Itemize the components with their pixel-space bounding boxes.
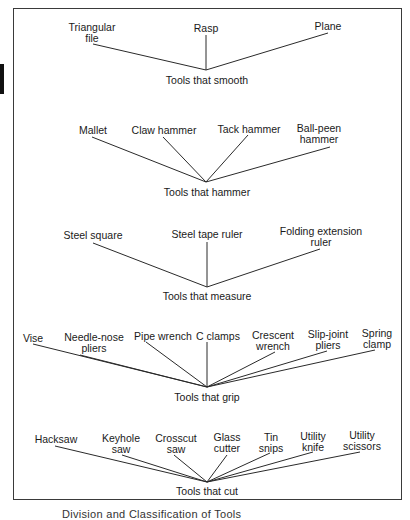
tool-label: Vise (23, 333, 43, 344)
tool-label: Ball-peen hammer (297, 123, 341, 145)
connector-hammer-1 (163, 137, 206, 182)
tool-label: Mallet (79, 125, 107, 136)
connector-grip-1 (80, 355, 207, 387)
connector-cut-3 (207, 455, 227, 482)
connector-grip-6 (207, 350, 375, 387)
tool-label: Crescent wrench (252, 330, 294, 352)
tool-label: Utility scissors (343, 430, 381, 452)
tool-label: Hacksaw (35, 434, 78, 445)
connector-cut-4 (207, 453, 270, 482)
group-caption-measure: Tools that measure (163, 291, 252, 302)
connector-hammer-2 (206, 135, 248, 182)
tool-label: Claw hammer (132, 125, 197, 136)
group-caption-hammer: Tools that hammer (164, 187, 250, 198)
tool-label: Needle-nose pliers (64, 332, 124, 354)
tool-label: Slip-joint pliers (308, 329, 348, 351)
tool-label: Rasp (194, 23, 219, 34)
connector-measure-2 (207, 249, 320, 287)
connector-grip-2 (146, 342, 207, 387)
connector-hammer-3 (206, 147, 330, 182)
tool-label: Glass cutter (214, 432, 241, 454)
connector-cut-5 (207, 452, 313, 482)
connector-measure-0 (93, 243, 207, 287)
figure-caption: Division and Classification of Tools (62, 508, 241, 520)
tool-label: Triangular file (69, 22, 116, 44)
tool-label: Tin snips (259, 432, 284, 454)
connector-hammer-0 (92, 137, 206, 182)
tool-label: Steel tape ruler (171, 229, 242, 240)
group-caption-grip: Tools that grip (174, 392, 239, 403)
tool-label: Keyhole saw (102, 433, 140, 455)
tool-label: C clamps (196, 331, 240, 342)
tool-label: Crosscut saw (155, 433, 196, 455)
tool-label: Plane (315, 21, 342, 32)
connector-smooth-2 (206, 33, 328, 70)
tool-label: Utility knife (300, 431, 326, 453)
tool-label: Spring clamp (362, 328, 392, 350)
connector-smooth-0 (93, 44, 206, 70)
tool-label: Steel square (64, 230, 123, 241)
tool-label: Tack hammer (217, 124, 280, 135)
group-caption-smooth: Tools that smooth (166, 75, 248, 86)
tool-label: Pipe wrench (134, 331, 192, 342)
tool-label: Folding extension ruler (280, 226, 362, 248)
connector-cut-6 (207, 452, 360, 482)
group-caption-cut: Tools that cut (176, 486, 238, 497)
connector-cut-1 (122, 455, 207, 482)
